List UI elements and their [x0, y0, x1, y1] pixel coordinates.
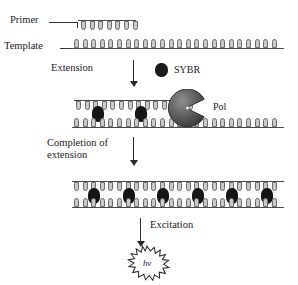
nucleotide: [194, 39, 199, 48]
template-label: Template: [4, 40, 43, 52]
nucleotide: [151, 182, 156, 191]
nucleotide: [83, 198, 88, 207]
excitation-label: Excitation: [150, 219, 193, 231]
nucleotide: [272, 118, 277, 127]
nucleotide: [117, 198, 122, 207]
completion-line-1: Completion of: [47, 137, 108, 148]
primer-leader-tick: [77, 22, 78, 28]
nucleotide: [237, 182, 242, 191]
nucleotide: [108, 198, 113, 207]
pol-label: Pol: [213, 101, 226, 113]
nucleotide: [83, 118, 88, 127]
nucleotide: [237, 39, 242, 48]
nucleotide: [272, 39, 277, 48]
sybr-dye-legend-icon: [155, 63, 168, 77]
nucleotide: [74, 182, 79, 191]
nucleotide: [229, 118, 234, 127]
nucleotide: [134, 182, 139, 191]
nucleotide: [212, 182, 217, 191]
nucleotide: [169, 198, 174, 207]
nucleotide: [143, 182, 148, 191]
nucleotide: [83, 39, 88, 48]
nucleotide: [220, 182, 225, 191]
nucleotide: [272, 182, 277, 191]
nucleotide: [153, 101, 158, 110]
template-backbone-complete: [72, 207, 284, 208]
nucleotide: [117, 39, 122, 48]
nucleotide: [74, 118, 79, 127]
nucleotide: [177, 198, 182, 207]
nucleotide: [100, 182, 105, 191]
nucleotide: [246, 39, 251, 48]
nucleotide: [203, 198, 208, 207]
nucleotide: [110, 101, 115, 110]
nucleotide: [255, 39, 260, 48]
nucleotide: [151, 39, 156, 48]
nucleotide: [263, 198, 268, 207]
nucleotide: [246, 118, 251, 127]
nucleotide: [100, 118, 105, 127]
nucleotide: [212, 198, 217, 207]
nucleotide: [255, 198, 260, 207]
nucleotide: [74, 39, 79, 48]
nucleotide: [143, 198, 148, 207]
nucleotide: [263, 118, 268, 127]
nucleotide: [115, 21, 120, 30]
nucleotide: [100, 198, 105, 207]
nucleotide: [186, 182, 191, 191]
nucleotide: [220, 39, 225, 48]
nucleotide: [212, 118, 217, 127]
nucleotide: [246, 182, 251, 191]
nucleotide: [134, 198, 139, 207]
nucleotide: [90, 21, 95, 30]
nucleotide: [203, 182, 208, 191]
nucleotide: [107, 21, 112, 30]
nucleotide: [203, 39, 208, 48]
nucleotide: [128, 101, 133, 110]
nucleotide: [74, 198, 79, 207]
nucleotide: [272, 198, 277, 207]
nucleotide: [143, 118, 148, 127]
nucleotide: [151, 198, 156, 207]
nucleotide: [81, 21, 86, 30]
nucleotide: [186, 39, 191, 48]
nucleotide: [124, 21, 129, 30]
nucleotide: [220, 118, 225, 127]
nucleotide: [91, 39, 96, 48]
nucleotide: [160, 118, 165, 127]
nucleotide: [134, 39, 139, 48]
nucleotide: [246, 198, 251, 207]
nucleotide: [83, 182, 88, 191]
nucleotide: [117, 118, 122, 127]
diagram-canvas: Primer Template Extension SYBR: [0, 0, 298, 285]
nucleotide: [212, 39, 217, 48]
nucleotide: [126, 118, 131, 127]
nucleotide: [169, 182, 174, 191]
completion-line-2: extension: [47, 149, 87, 160]
nucleotide: [108, 118, 113, 127]
nucleotide: [160, 39, 165, 48]
nucleotide: [91, 118, 96, 127]
primer-leader-line: [49, 22, 78, 23]
nucleotide: [237, 118, 242, 127]
nucleotide: [160, 198, 165, 207]
template-backbone: [72, 48, 284, 49]
nucleotide: [255, 182, 260, 191]
nucleotide: [186, 198, 191, 207]
template-backbone-extension: [72, 127, 284, 128]
nucleotide: [108, 182, 113, 191]
nucleotide: [98, 21, 103, 30]
nucleotide: [108, 39, 113, 48]
nucleotide: [194, 198, 199, 207]
nucleotide: [220, 198, 225, 207]
nucleotide: [263, 39, 268, 48]
nucleotide: [177, 182, 182, 191]
nucleotide: [177, 39, 182, 48]
completion-label: Completion ofextension: [47, 137, 108, 162]
primer-label: Primer: [10, 14, 39, 26]
pol-enzyme-icon: [167, 89, 205, 127]
nucleotide: [169, 39, 174, 48]
nucleotide: [126, 39, 131, 48]
nucleotide: [229, 198, 234, 207]
photon-burst-icon: hv: [124, 245, 170, 281]
